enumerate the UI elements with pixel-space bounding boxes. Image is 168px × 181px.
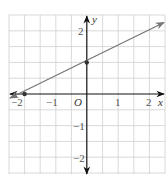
y-tick-neg1: −1 <box>73 120 85 132</box>
x-axis-label: x <box>157 96 163 108</box>
y-tick-neg2: −2 <box>73 152 85 164</box>
x-tick-2: 2 <box>146 96 152 108</box>
x-tick-neg2: −2 <box>11 96 23 108</box>
x-tick-1: 1 <box>115 96 121 108</box>
origin-label: O <box>74 96 82 108</box>
y-intercept-point <box>85 60 89 64</box>
y-tick-2: 2 <box>78 25 84 37</box>
coordinate-plane: y x O −2 −1 1 2 2 −1 −2 <box>0 0 168 181</box>
x-intercept-point <box>22 92 26 96</box>
x-tick-neg1: −1 <box>46 96 58 108</box>
y-axis-label: y <box>91 13 97 25</box>
